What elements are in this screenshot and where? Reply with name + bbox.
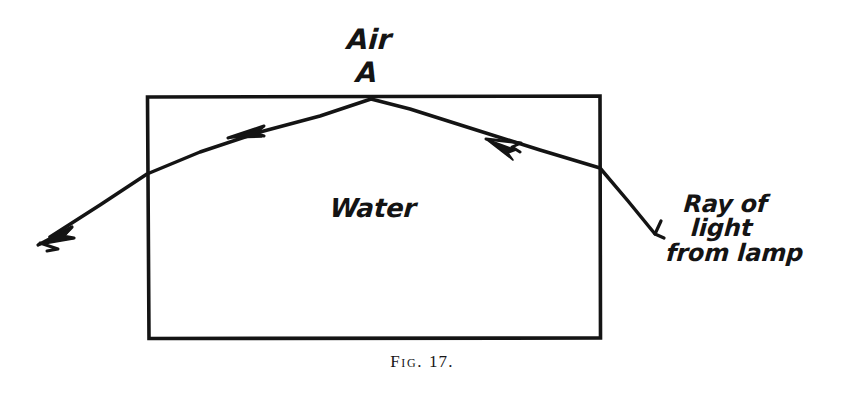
ray-label-line-1: Ray of	[683, 192, 808, 216]
label-air: Air	[346, 26, 392, 55]
outgoing-ray-arrowhead-inner	[228, 126, 264, 138]
figure-caption: Fig. 17.	[0, 352, 844, 372]
incident-ray-arrowhead	[486, 139, 521, 160]
figure-17: Air A Water Ray of light from lamp Fig. …	[0, 0, 844, 396]
figure-caption-label: Fig.	[390, 352, 423, 371]
label-point-a: A	[355, 59, 378, 88]
ray-label-line-2: light	[690, 216, 806, 240]
outgoing-ray	[38, 99, 371, 251]
label-water: Water	[329, 195, 417, 222]
ray-label-line-3: from lamp	[665, 241, 804, 265]
outgoing-ray-arrowhead-end	[38, 227, 74, 251]
label-ray-of-light-from-lamp: Ray of light from lamp	[679, 192, 807, 265]
figure-caption-number: 17.	[429, 352, 454, 371]
